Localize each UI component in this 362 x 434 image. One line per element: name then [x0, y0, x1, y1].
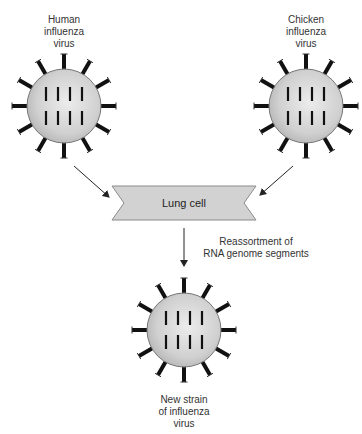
spike [139, 304, 154, 313]
spike [336, 80, 351, 89]
new-strain-virus-icon [132, 278, 236, 382]
reassortment-label: Reassortment of RNA genome segments [196, 236, 316, 260]
label-line: influenza [256, 26, 356, 38]
lung-cell-label: Lung cell [112, 186, 256, 220]
label-line: Human [14, 14, 114, 26]
virus-body [269, 69, 343, 143]
spike [158, 360, 167, 375]
spike [324, 136, 333, 151]
arrow-human-to-lung [74, 166, 109, 197]
spike [261, 80, 276, 89]
virus-body [27, 69, 101, 143]
spike [280, 61, 289, 76]
spike [94, 124, 109, 133]
spike [214, 304, 229, 313]
label-line: virus [256, 38, 356, 50]
label-line: Chicken [256, 14, 356, 26]
virus-body [147, 293, 221, 367]
label-line: virus [14, 38, 114, 50]
human-virus-label: Human influenza virus [14, 14, 114, 50]
spike [202, 360, 211, 375]
label-line: Reassortment of [196, 236, 316, 248]
spike [139, 348, 154, 357]
spike [19, 124, 34, 133]
label-line: New strain [134, 394, 234, 406]
spike [158, 285, 167, 300]
new-strain-label: New strain of influenza virus [134, 394, 234, 430]
spike [280, 136, 289, 151]
spike [82, 61, 91, 76]
arrow-chicken-to-lung [260, 166, 293, 195]
spike [324, 61, 333, 76]
spike [82, 136, 91, 151]
spike [336, 124, 351, 133]
label-line: influenza [14, 26, 114, 38]
spike [38, 136, 47, 151]
label-line: of influenza [134, 406, 234, 418]
label-line: virus [134, 418, 234, 430]
spike [214, 348, 229, 357]
spike [38, 61, 47, 76]
chicken-influenza-virus-icon [254, 54, 358, 158]
spike [202, 285, 211, 300]
spike [19, 80, 34, 89]
spike [94, 80, 109, 89]
spike [261, 124, 276, 133]
human-influenza-virus-icon [12, 54, 116, 158]
chicken-virus-label: Chicken influenza virus [256, 14, 356, 50]
label-line: RNA genome segments [196, 248, 316, 260]
